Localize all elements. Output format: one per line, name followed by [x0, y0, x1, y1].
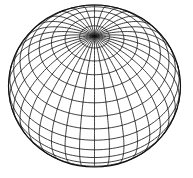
grid-line: [39, 36, 94, 154]
wireframe-sphere-figure: [0, 0, 193, 178]
grid-line: [95, 36, 138, 160]
grid-line: [95, 36, 110, 166]
sphere-wireframe: [0, 0, 193, 178]
grid-line: [95, 36, 150, 154]
sphere-grid-lines: [9, 5, 181, 167]
grid-line: [80, 36, 95, 166]
grid-line: [52, 36, 95, 160]
